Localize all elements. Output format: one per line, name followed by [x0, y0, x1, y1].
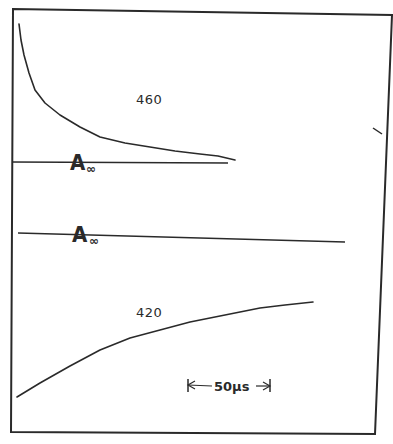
trace-label-460: 460 [136, 92, 162, 107]
time-scale-bar: 50µs [188, 379, 270, 394]
baseline-top-line [12, 162, 228, 163]
baseline-label-bottom: A ∞ [72, 222, 99, 248]
baseline-bottom-line [18, 233, 345, 242]
baseline-label-top: A ∞ [70, 150, 96, 176]
plot-frame [11, 9, 392, 434]
trace-label-420: 420 [136, 305, 162, 320]
right-border-tick [373, 128, 382, 134]
trace-420-curve [17, 302, 313, 397]
a-infinity-letter: A [72, 222, 88, 247]
oscilloscope-figure: 460 420 A ∞ A ∞ 50µs [0, 0, 393, 444]
scale-bar-label: 50µs [214, 379, 250, 394]
infinity-subscript: ∞ [89, 234, 99, 248]
trace-460-curve [19, 24, 235, 160]
infinity-subscript: ∞ [86, 162, 96, 176]
scale-bar-left-arrow [188, 385, 212, 386]
a-infinity-letter: A [70, 150, 86, 175]
